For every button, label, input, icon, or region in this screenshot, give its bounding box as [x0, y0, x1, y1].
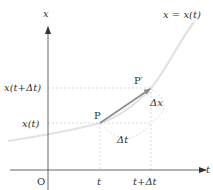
point-p-label: P [94, 111, 101, 121]
dashed-guides [48, 88, 164, 170]
y-tick-x-t-plus-dt: x(t+Δt) [4, 83, 41, 93]
x-tick-t: t [97, 177, 101, 187]
x-tick-t-plus-dt: t+Δt [133, 177, 157, 187]
delta-t-label: Δt [117, 135, 128, 145]
y-axis-label: x [43, 9, 49, 19]
x-axis-label: t [206, 165, 210, 175]
derivative-diagram: x t O x = x(t) P P′ x(t) x(t+Δt) t t+Δt … [0, 0, 213, 190]
origin-label: O [37, 177, 45, 187]
curve-label: x = x(t) [163, 10, 201, 20]
point-p-prime-label: P′ [134, 76, 143, 86]
delta-x-label: Δx [150, 98, 163, 108]
y-tick-x-t: x(t) [22, 119, 39, 129]
diagram-graphics [0, 0, 213, 190]
secant-arrow [100, 89, 150, 123]
